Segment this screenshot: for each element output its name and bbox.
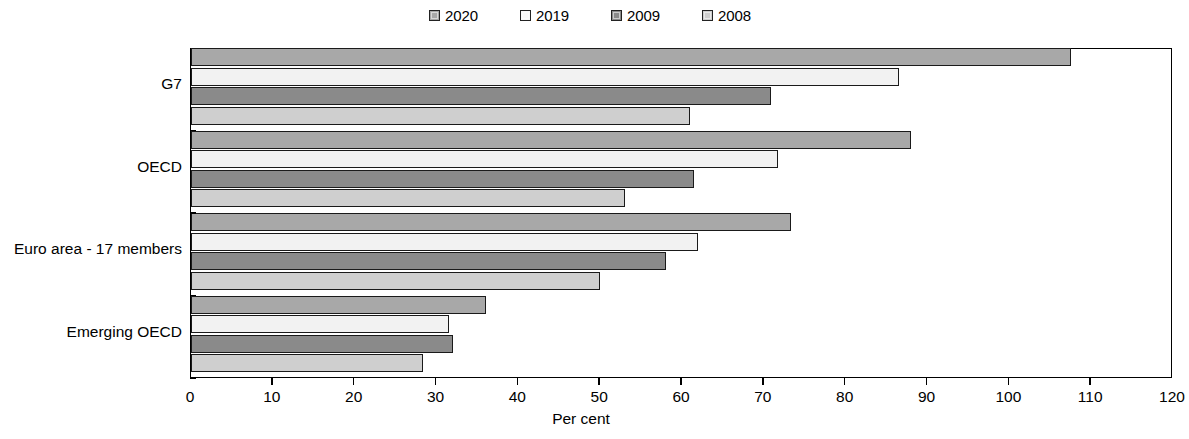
bar-2008-euro-area-17-members: [191, 272, 600, 290]
plot-area: [190, 48, 1172, 378]
y-axis-tick: [190, 377, 196, 379]
legend-label-2008: 2008: [718, 8, 751, 23]
x-axis-tick-label: 100: [978, 388, 1038, 405]
x-axis-tick: [271, 378, 273, 385]
bar-2009-euro-area-17-members: [191, 252, 666, 270]
bar-2009-g7: [191, 87, 771, 105]
bar-2008-emerging-oecd: [191, 354, 423, 372]
legend-item-2020: 2020: [429, 8, 478, 23]
x-axis-tick: [680, 378, 682, 385]
x-axis-tick-label: 70: [733, 388, 793, 405]
x-axis-tick-label: 0: [160, 388, 220, 405]
bar-2009-oecd: [191, 170, 694, 188]
y-axis-label-euro-area-17-members: Euro area - 17 members: [0, 241, 182, 257]
bar-row: [191, 170, 1173, 188]
bar-group: [191, 297, 1171, 380]
x-axis-tick-label: 80: [815, 388, 875, 405]
bar-row: [191, 252, 1173, 270]
y-axis-tick: [190, 295, 196, 297]
bar-row: [191, 354, 1173, 372]
bar-2020-euro-area-17-members: [191, 213, 791, 231]
bar-row: [191, 296, 1173, 314]
x-axis-tick-label: 20: [324, 388, 384, 405]
bars-layer: [191, 49, 1171, 377]
bar-row: [191, 87, 1173, 105]
x-axis-tick: [353, 378, 355, 385]
bar-row: [191, 233, 1173, 251]
legend-label-2020: 2020: [445, 8, 478, 23]
x-axis-tick-label: 110: [1060, 388, 1120, 405]
bar-row: [191, 315, 1173, 333]
x-axis-tick-label: 40: [487, 388, 547, 405]
x-axis-title: Per cent: [0, 410, 1180, 427]
legend-item-2009: 2009: [611, 8, 660, 23]
bar-2020-g7: [191, 48, 1071, 66]
x-axis-tick: [926, 378, 928, 385]
x-axis-tick: [1089, 378, 1091, 385]
bar-2009-emerging-oecd: [191, 335, 453, 353]
y-axis-label-oecd: OECD: [0, 159, 182, 175]
bar-row: [191, 213, 1173, 231]
bar-2019-emerging-oecd: [191, 315, 449, 333]
legend-swatch-2020: [429, 10, 440, 21]
x-axis-tick: [598, 378, 600, 385]
x-axis-tick: [844, 378, 846, 385]
legend-label-2019: 2019: [536, 8, 569, 23]
bar-2019-euro-area-17-members: [191, 233, 698, 251]
bar-group: [191, 214, 1171, 297]
bar-row: [191, 107, 1173, 125]
y-axis-label-g7: G7: [0, 76, 182, 92]
legend-label-2009: 2009: [627, 8, 660, 23]
x-axis-tick-label: 50: [569, 388, 629, 405]
bar-group: [191, 132, 1171, 215]
bar-row: [191, 68, 1173, 86]
bar-row: [191, 189, 1173, 207]
bar-row: [191, 48, 1173, 66]
chart-legend: 2020 2019 2009 2008: [0, 8, 1180, 23]
bar-2020-emerging-oecd: [191, 296, 486, 314]
bar-row: [191, 272, 1173, 290]
legend-item-2008: 2008: [702, 8, 751, 23]
bar-2019-g7: [191, 68, 899, 86]
legend-swatch-2009: [611, 10, 622, 21]
x-axis-tick-label: 10: [242, 388, 302, 405]
x-axis-title-text: Per cent: [552, 410, 610, 427]
x-axis-tick: [517, 378, 519, 385]
legend-swatch-2008: [702, 10, 713, 21]
x-axis-tick: [762, 378, 764, 385]
bar-row: [191, 150, 1173, 168]
x-axis-tick-label: 120: [1142, 388, 1189, 405]
bar-2019-oecd: [191, 150, 778, 168]
bar-row: [191, 335, 1173, 353]
x-axis-tick-label: 60: [651, 388, 711, 405]
x-axis-tick-label: 90: [897, 388, 957, 405]
x-axis-tick-label: 30: [406, 388, 466, 405]
legend-swatch-2019: [520, 10, 531, 21]
bar-2008-oecd: [191, 189, 625, 207]
x-axis-tick: [435, 378, 437, 385]
y-axis-tick: [190, 212, 196, 214]
bar-2008-g7: [191, 107, 690, 125]
y-axis-label-emerging-oecd: Emerging OECD: [0, 324, 182, 340]
y-axis-tick: [190, 130, 196, 132]
bar-2020-oecd: [191, 131, 911, 149]
legend-item-2019: 2019: [520, 8, 569, 23]
bar-group: [191, 49, 1171, 132]
bar-row: [191, 131, 1173, 149]
x-axis-tick: [1008, 378, 1010, 385]
